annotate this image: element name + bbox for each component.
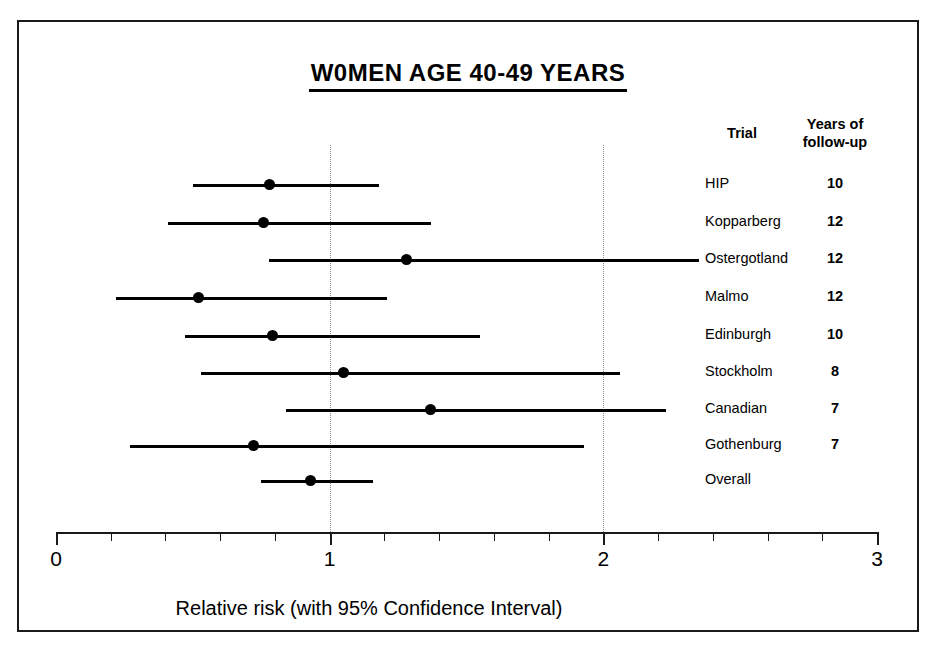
trial-label-kopparberg: Kopparberg bbox=[705, 213, 781, 229]
trial-label-stockholm: Stockholm bbox=[705, 363, 773, 379]
trial-label-gothenburg: Gothenburg bbox=[705, 436, 782, 452]
x-tick-2.8 bbox=[822, 532, 823, 541]
x-tick-2.2 bbox=[658, 532, 659, 541]
x-tick-0.4 bbox=[165, 532, 166, 541]
x-tick-0.0 bbox=[56, 532, 58, 545]
gridline-1 bbox=[330, 145, 331, 532]
confidence-interval-line bbox=[185, 335, 481, 338]
point-estimate-marker bbox=[248, 440, 259, 451]
column-header-years-of-follow-up: Years offollow-up bbox=[803, 115, 867, 151]
point-estimate-marker bbox=[258, 217, 269, 228]
x-tick-label-2: 2 bbox=[597, 547, 609, 571]
confidence-interval-line bbox=[130, 445, 584, 448]
confidence-interval-line bbox=[168, 222, 431, 225]
plot-canvas: 0123TrialYears offollow-upHIP10Kopparber… bbox=[19, 22, 921, 634]
x-tick-label-1: 1 bbox=[324, 547, 336, 571]
confidence-interval-line bbox=[116, 297, 387, 300]
x-axis-line bbox=[56, 532, 877, 534]
x-tick-1.2 bbox=[384, 532, 385, 541]
point-estimate-marker bbox=[193, 292, 204, 303]
gridline-2 bbox=[603, 145, 604, 532]
x-tick-2.6 bbox=[768, 532, 769, 541]
trial-label-ostergotland: Ostergotland bbox=[705, 250, 788, 266]
trial-label-hip: HIP bbox=[705, 175, 729, 191]
point-estimate-marker bbox=[338, 367, 349, 378]
x-tick-2.0 bbox=[603, 532, 605, 545]
years-value-hip: 10 bbox=[827, 175, 843, 191]
x-tick-1.0 bbox=[330, 532, 332, 545]
confidence-interval-line bbox=[269, 259, 699, 262]
years-value-stockholm: 8 bbox=[831, 363, 839, 379]
x-tick-0.2 bbox=[111, 532, 112, 541]
x-tick-label-3: 3 bbox=[871, 547, 883, 571]
x-tick-2.4 bbox=[713, 532, 714, 541]
x-tick-1.4 bbox=[439, 532, 440, 541]
point-estimate-marker bbox=[425, 404, 436, 415]
confidence-interval-line bbox=[201, 372, 620, 375]
trial-label-edinburgh: Edinburgh bbox=[705, 326, 771, 342]
point-estimate-marker bbox=[401, 254, 412, 265]
years-value-kopparberg: 12 bbox=[827, 213, 843, 229]
years-value-ostergotland: 12 bbox=[827, 250, 843, 266]
column-header-years-line2: follow-up bbox=[803, 133, 867, 151]
trial-label-malmo: Malmo bbox=[705, 288, 749, 304]
column-header-trial: Trial bbox=[727, 124, 757, 142]
point-estimate-marker bbox=[267, 330, 278, 341]
years-value-canadian: 7 bbox=[831, 400, 839, 416]
confidence-interval-line bbox=[261, 480, 373, 483]
confidence-interval-line bbox=[193, 184, 379, 187]
x-tick-0.6 bbox=[220, 532, 221, 541]
column-header-years-line1: Years of bbox=[803, 115, 867, 133]
point-estimate-marker bbox=[264, 179, 275, 190]
x-tick-label-0: 0 bbox=[50, 547, 62, 571]
confidence-interval-line bbox=[286, 409, 666, 412]
x-tick-1.8 bbox=[549, 532, 550, 541]
years-value-gothenburg: 7 bbox=[831, 436, 839, 452]
x-tick-1.6 bbox=[494, 532, 495, 541]
x-axis-label: Relative risk (with 95% Confidence Inter… bbox=[19, 597, 719, 620]
trial-label-overall: Overall bbox=[705, 471, 751, 487]
x-tick-0.8 bbox=[275, 532, 276, 541]
point-estimate-marker bbox=[305, 475, 316, 486]
years-value-malmo: 12 bbox=[827, 288, 843, 304]
trial-label-canadian: Canadian bbox=[705, 400, 767, 416]
x-tick-3.0 bbox=[877, 532, 879, 545]
figure-frame: W0MEN AGE 40-49 YEARS 0123TrialYears off… bbox=[17, 20, 919, 632]
years-value-edinburgh: 10 bbox=[827, 326, 843, 342]
